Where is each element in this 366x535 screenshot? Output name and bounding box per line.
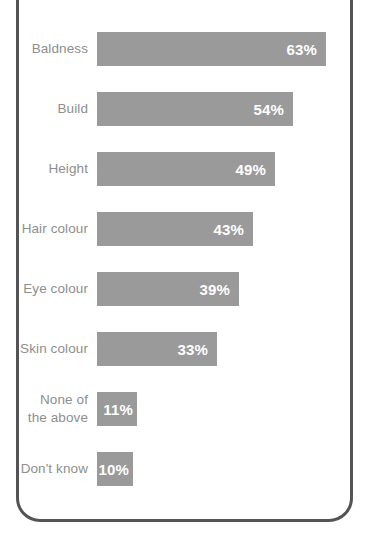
value-label: 10% — [98, 461, 129, 478]
value-label: 43% — [213, 221, 244, 238]
bar: 63% — [97, 32, 326, 66]
bar: 11% — [97, 392, 137, 426]
category-label: Don't know — [18, 452, 88, 486]
bar-row: Baldness63% — [0, 32, 366, 66]
category-label: Eye colour — [18, 272, 88, 306]
bar: 33% — [97, 332, 217, 366]
rounded-frame — [16, 0, 353, 522]
value-label: 63% — [286, 41, 317, 58]
bar-row: None of the above11% — [0, 392, 366, 426]
category-label: Hair colour — [18, 212, 88, 246]
bar: 39% — [97, 272, 239, 306]
bar: 43% — [97, 212, 253, 246]
bar-row: Eye colour39% — [0, 272, 366, 306]
value-label: 39% — [199, 281, 230, 298]
category-label: Build — [18, 92, 88, 126]
value-label: 33% — [177, 341, 208, 358]
bar-row: Hair colour43% — [0, 212, 366, 246]
value-label: 54% — [253, 101, 284, 118]
bar: 10% — [97, 452, 133, 486]
category-label: Baldness — [18, 32, 88, 66]
category-label: None of the above — [18, 392, 88, 426]
value-label: 49% — [235, 161, 266, 178]
bar: 54% — [97, 92, 293, 126]
category-label: Skin colour — [18, 332, 88, 366]
bar-row: Build54% — [0, 92, 366, 126]
bar-row: Skin colour33% — [0, 332, 366, 366]
bar: 49% — [97, 152, 275, 186]
chart-canvas: Baldness63%Build54%Height49%Hair colour4… — [0, 0, 366, 535]
bar-row: Don't know10% — [0, 452, 366, 486]
value-label: 11% — [103, 401, 133, 418]
bar-row: Height49% — [0, 152, 366, 186]
category-label: Height — [18, 152, 88, 186]
